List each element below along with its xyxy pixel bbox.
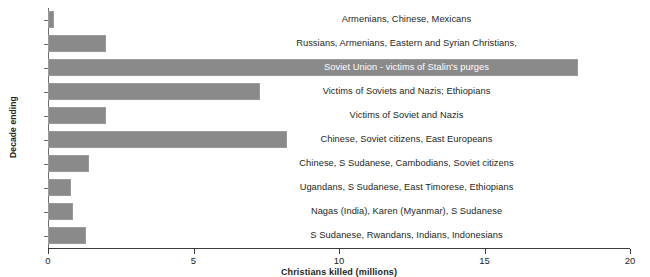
x-axis-tick-label: 20 xyxy=(610,255,650,266)
x-axis-title: Christians killed (millions) xyxy=(48,267,630,277)
bar-annotation: Chinese, S Sudanese, Cambodians, Soviet … xyxy=(48,152,630,176)
bar-row: 1950Victims of Soviet and Nazis xyxy=(48,104,630,128)
bar-annotation: Armenians, Chinese, Mexicans xyxy=(48,8,630,32)
x-axis-tick-label: 0 xyxy=(28,255,68,266)
x-axis-tick xyxy=(48,249,49,254)
bar-annotation: Soviet Union - victims of Stalin's purge… xyxy=(48,56,630,80)
x-axis-tick xyxy=(194,249,195,254)
x-axis-tick xyxy=(485,249,486,254)
bar-annotation: Nagas (India), Karen (Myanmar), S Sudane… xyxy=(48,200,630,224)
bar-row: 1940Victims of Soviets and Nazis; Ethiop… xyxy=(48,80,630,104)
bar-row: 1910Armenians, Chinese, Mexicans xyxy=(48,8,630,32)
bar-annotation: Ugandans, S Sudanese, East Timorese, Eth… xyxy=(48,176,630,200)
x-axis-tick-label: 5 xyxy=(174,255,214,266)
y-axis-title: Decade ending xyxy=(8,67,18,187)
x-axis-tick-label: 10 xyxy=(319,255,359,266)
bar-annotation: Russians, Armenians, Eastern and Syrian … xyxy=(48,32,630,56)
bar-annotation: Chinese, Soviet citizens, East Europeans xyxy=(48,128,630,152)
bar-row: 1980Ugandans, S Sudanese, East Timorese,… xyxy=(48,176,630,200)
x-axis-tick xyxy=(630,249,631,254)
bar-row: 1920Russians, Armenians, Eastern and Syr… xyxy=(48,32,630,56)
bar-row: 1970Chinese, S Sudanese, Cambodians, Sov… xyxy=(48,152,630,176)
bar-row: 1960Chinese, Soviet citizens, East Europ… xyxy=(48,128,630,152)
x-axis-tick xyxy=(339,249,340,254)
plot-area: 1910Armenians, Chinese, Mexicans1920Russ… xyxy=(48,8,630,248)
bar-row: 1930Soviet Union - victims of Stalin's p… xyxy=(48,56,630,80)
x-axis-tick-label: 15 xyxy=(465,255,505,266)
bar-row: 2000S Sudanese, Rwandans, Indians, Indon… xyxy=(48,224,630,248)
bar-annotation: S Sudanese, Rwandans, Indians, Indonesia… xyxy=(48,224,630,248)
bar-annotation: Victims of Soviets and Nazis; Ethiopians xyxy=(48,80,630,104)
bar-annotation: Victims of Soviet and Nazis xyxy=(48,104,630,128)
bar-row: 1990Nagas (India), Karen (Myanmar), S Su… xyxy=(48,200,630,224)
